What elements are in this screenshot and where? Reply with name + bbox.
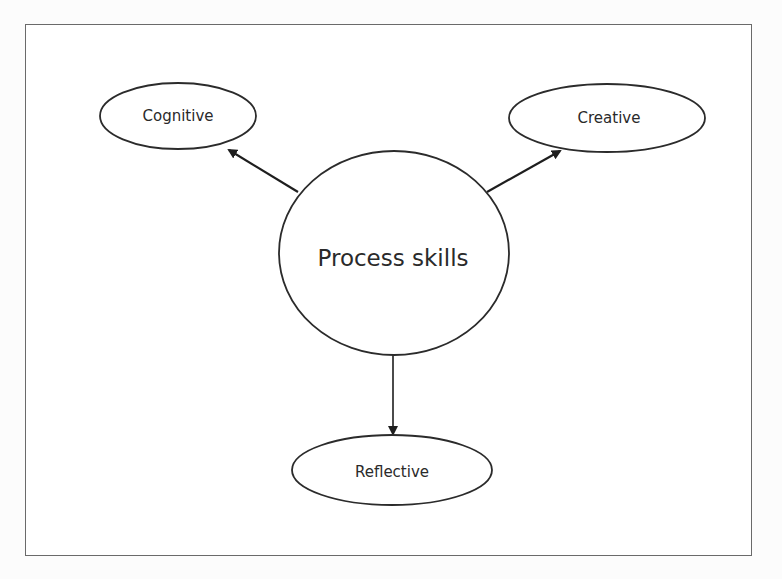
arrow-to-creative bbox=[487, 151, 560, 192]
creative-label: Creative bbox=[578, 109, 641, 127]
document-page: Cognitive Creative Process skills Reflec… bbox=[0, 0, 782, 579]
cognitive-label: Cognitive bbox=[142, 107, 213, 125]
arrow-to-cognitive bbox=[229, 150, 298, 192]
diagram-canvas bbox=[0, 0, 782, 579]
reflective-label: Reflective bbox=[355, 463, 429, 481]
process-skills-label: Process skills bbox=[317, 245, 468, 271]
